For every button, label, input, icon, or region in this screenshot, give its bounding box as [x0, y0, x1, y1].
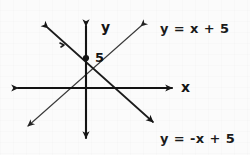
line-down-tick-mark	[60, 43, 64, 47]
intercept-dot-icon	[83, 55, 89, 61]
x-axis-label: x	[181, 79, 190, 95]
line-y-equals-x-plus-5	[28, 26, 141, 126]
line-y-equals-negative-x-plus-5	[48, 28, 153, 122]
y-intercept-point-marker	[83, 55, 89, 61]
y-axis-label: y	[101, 19, 110, 35]
diagram-canvas: y = x + 5 y = -x + 5 y x 5	[0, 0, 250, 155]
line-down-stroke	[48, 28, 153, 122]
line-down-equation-label: y = -x + 5	[160, 131, 235, 146]
y-intercept-value-label: 5	[95, 50, 104, 65]
line-up-stroke	[28, 26, 141, 126]
line-up-equation-label: y = x + 5	[160, 21, 229, 36]
